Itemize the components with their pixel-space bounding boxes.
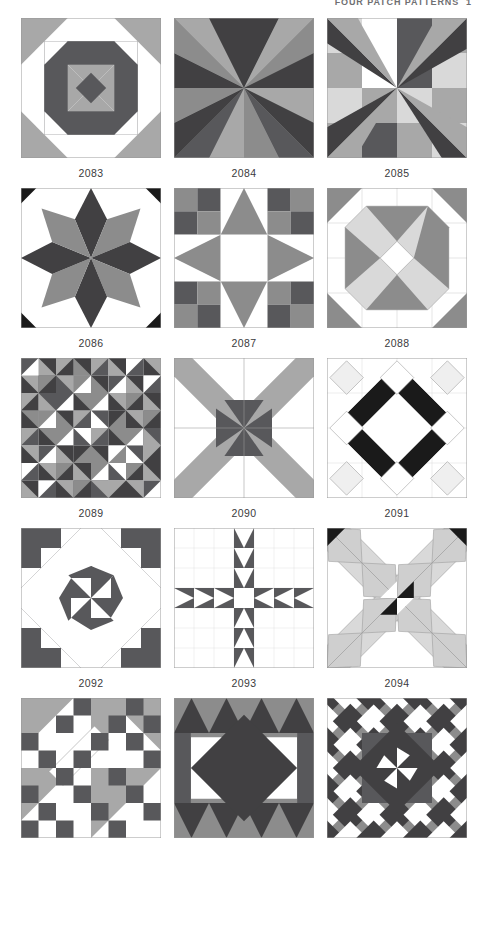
block-art-2088 xyxy=(327,188,467,328)
block-cell-2085[interactable]: 2085 xyxy=(327,18,467,181)
block-cell-2093[interactable]: 2093 xyxy=(174,528,314,691)
block-caption: 2086 xyxy=(79,338,104,351)
block-art-13 xyxy=(21,698,161,838)
block-cell-2083[interactable]: 2083 xyxy=(21,18,161,181)
block-caption: 2094 xyxy=(385,678,410,691)
block-cell-2086[interactable]: 2086 xyxy=(21,188,161,351)
block-cell-2087[interactable]: 2087 xyxy=(174,188,314,351)
block-caption: 2085 xyxy=(385,168,410,181)
block-row xyxy=(0,698,488,861)
block-caption: 2089 xyxy=(79,508,104,521)
running-head: FOUR PATCH PATTERNS1 xyxy=(335,0,472,7)
block-art-2091 xyxy=(327,358,467,498)
page-folio: 1 xyxy=(466,0,472,7)
block-row: 2086 2087 2088 xyxy=(0,188,488,351)
block-row: 2092 2093 2094 xyxy=(0,528,488,691)
block-cell-2094[interactable]: 2094 xyxy=(327,528,467,691)
block-art-2085 xyxy=(327,18,467,158)
block-art-2089 xyxy=(21,358,161,498)
block-row: 2089 2090 2091 xyxy=(0,358,488,521)
block-art-2087 xyxy=(174,188,314,328)
block-cell-2088[interactable]: 2088 xyxy=(327,188,467,351)
block-cell-2084[interactable]: 2084 xyxy=(174,18,314,181)
block-cell-14[interactable] xyxy=(174,698,314,861)
block-cell-2091[interactable]: 2091 xyxy=(327,358,467,521)
block-caption: 2090 xyxy=(232,508,257,521)
block-caption: 2083 xyxy=(79,168,104,181)
block-cell-15[interactable] xyxy=(327,698,467,861)
block-cell-2092[interactable]: 2092 xyxy=(21,528,161,691)
block-row: 2083 2084 2085 xyxy=(0,18,488,181)
block-caption: 2084 xyxy=(232,168,257,181)
catalog-page: FOUR PATCH PATTERNS1 2083 2084 2085 2086 xyxy=(0,0,488,927)
block-cell-2090[interactable]: 2090 xyxy=(174,358,314,521)
block-art-2090 xyxy=(174,358,314,498)
block-cell-13[interactable] xyxy=(21,698,161,861)
block-caption: 2093 xyxy=(232,678,257,691)
block-grid: 2083 2084 2085 2086 2087 2088 xyxy=(0,18,488,868)
block-cell-2089[interactable]: 2089 xyxy=(21,358,161,521)
block-art-2092 xyxy=(21,528,161,668)
block-art-2094 xyxy=(327,528,467,668)
block-caption: 2087 xyxy=(232,338,257,351)
block-caption: 2091 xyxy=(385,508,410,521)
block-art-2086 xyxy=(21,188,161,328)
running-head-title: FOUR PATCH PATTERNS xyxy=(335,0,459,7)
block-art-2084 xyxy=(174,18,314,158)
block-art-2083 xyxy=(21,18,161,158)
block-art-2093 xyxy=(174,528,314,668)
block-art-15 xyxy=(327,698,467,838)
block-caption: 2092 xyxy=(79,678,104,691)
block-art-14 xyxy=(174,698,314,838)
block-caption: 2088 xyxy=(385,338,410,351)
